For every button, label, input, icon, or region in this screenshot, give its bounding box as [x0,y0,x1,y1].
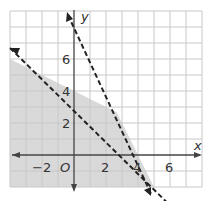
line1-arrow-left-icon [10,48,20,55]
graph: y x O −2 2 4 6 2 4 6 [0,0,212,201]
x-axis-label: x [193,138,202,153]
coordinate-plane: y x O −2 2 4 6 2 4 6 [0,0,212,201]
x-tick-4: 4 [133,160,141,175]
x-tick-6: 6 [165,160,173,175]
line2-arrow-down-icon [144,187,151,196]
y-tick-6: 6 [62,52,70,67]
y-tick-4: 4 [62,84,70,99]
line2-arrow-up-icon [66,12,73,22]
x-tick-2: 2 [101,160,109,175]
origin-label: O [60,160,70,175]
y-axis-arrow-down-icon [71,184,77,192]
x-tick-neg2: −2 [32,160,51,175]
y-axis-label: y [80,9,89,24]
y-tick-2: 2 [62,116,70,131]
